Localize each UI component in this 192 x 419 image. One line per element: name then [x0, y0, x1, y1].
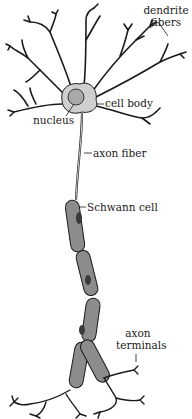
schwann-cells [64, 199, 112, 389]
label-dendrite-fibers: dendrite fibers [140, 5, 192, 27]
label-dendrite-fibers-line2: fibers [140, 17, 192, 28]
label-nucleus: nucleus [33, 115, 74, 126]
label-schwann-cell: Schwann cell [87, 202, 158, 213]
label-axon-fiber: axon fiber [93, 148, 147, 159]
label-cell-body: cell body [105, 98, 153, 109]
label-pointers [66, 22, 168, 362]
label-axon-terminals: axon terminals [116, 328, 160, 350]
label-axon-terminals-line1: axon [116, 328, 160, 339]
label-axon-terminals-line2: terminals [116, 340, 160, 351]
nucleus [68, 89, 84, 105]
label-dendrite-fibers-line1: dendrite [140, 5, 192, 16]
